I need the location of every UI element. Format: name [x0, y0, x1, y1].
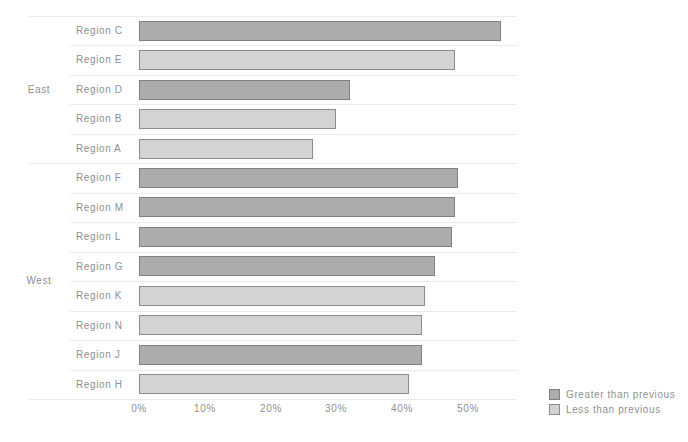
legend: Greater than previous Less than previous	[549, 387, 675, 417]
bar-region-g	[139, 256, 435, 276]
row-separator-line	[70, 281, 517, 282]
plot-area: Region CRegion ERegion DRegion BRegion A…	[0, 0, 688, 442]
legend-swatch-less-icon	[549, 404, 560, 415]
bar-region-f	[139, 168, 458, 188]
bar-label-region-e: Region E	[76, 45, 122, 74]
bar-label-region-f: Region F	[76, 163, 121, 192]
group-separator-line	[28, 399, 517, 400]
bar-label-region-d: Region D	[76, 75, 123, 104]
bar-label-region-k: Region K	[76, 281, 122, 310]
group-label-east: East	[18, 84, 60, 95]
bar-region-h	[139, 374, 409, 394]
bar-label-region-j: Region J	[76, 340, 120, 369]
bar-region-l	[139, 227, 452, 247]
bar-label-region-b: Region B	[76, 104, 122, 133]
bar-region-e	[139, 50, 455, 70]
bar-region-m	[139, 197, 455, 217]
bar-region-c	[139, 21, 501, 41]
bar-region-b	[139, 109, 336, 129]
bar-label-region-a: Region A	[76, 134, 121, 163]
legend-label-less: Less than previous	[566, 404, 661, 415]
bar-region-j	[139, 345, 422, 365]
bar-label-region-c: Region C	[76, 16, 123, 45]
bar-region-a	[139, 139, 313, 159]
bar-label-region-m: Region M	[76, 193, 124, 222]
x-tick-label-10: 10%	[183, 403, 227, 414]
row-separator-line	[70, 222, 517, 223]
bar-label-region-l: Region L	[76, 222, 121, 251]
bar-region-k	[139, 286, 425, 306]
bar-region-n	[139, 315, 422, 335]
x-tick-label-40: 40%	[380, 403, 424, 414]
row-separator-line	[70, 252, 517, 253]
row-separator-line	[70, 340, 517, 341]
legend-label-greater: Greater than previous	[566, 389, 675, 400]
bar-label-region-h: Region H	[76, 370, 123, 399]
row-separator-line	[70, 75, 517, 76]
x-tick-label-50: 50%	[446, 403, 490, 414]
bar-label-region-n: Region N	[76, 311, 123, 340]
x-tick-label-0: 0%	[117, 403, 161, 414]
bar-region-d	[139, 80, 350, 100]
row-separator-line	[70, 311, 517, 312]
row-separator-line	[70, 134, 517, 135]
legend-swatch-greater-icon	[549, 389, 560, 400]
grouped-bar-chart: Region CRegion ERegion DRegion BRegion A…	[0, 0, 688, 442]
row-separator-line	[70, 370, 517, 371]
x-tick-label-30: 30%	[314, 403, 358, 414]
x-tick-label-20: 20%	[249, 403, 293, 414]
row-separator-line	[70, 104, 517, 105]
row-separator-line	[70, 193, 517, 194]
legend-item-less-than-previous: Less than previous	[549, 402, 675, 417]
group-label-west: West	[18, 275, 60, 286]
legend-item-greater-than-previous: Greater than previous	[549, 387, 675, 402]
bar-label-region-g: Region G	[76, 252, 123, 281]
row-separator-line	[70, 45, 517, 46]
